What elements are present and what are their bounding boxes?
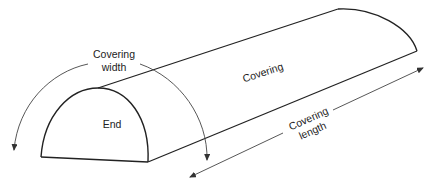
- back-end-arc: [338, 9, 417, 51]
- covering-width-label-1: Covering: [93, 48, 135, 60]
- covering-length-arrow-upper: [333, 68, 423, 110]
- front-end-arc: [41, 88, 148, 162]
- covering-width-arrow-right: [140, 64, 207, 160]
- end-label: End: [103, 118, 122, 130]
- covering-diagram: Covering width Covering End Covering len…: [0, 0, 435, 192]
- covering-width-label-2: width: [101, 61, 127, 73]
- covering-label: Covering: [241, 60, 285, 84]
- front-base: [41, 157, 148, 162]
- covering-width-arrow-left: [14, 64, 88, 150]
